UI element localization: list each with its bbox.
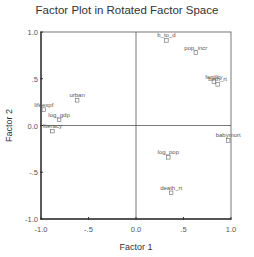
factor-plot: -1.0-.50.0.51.01.0.50.0-.5-1.0Factor 1Fa… xyxy=(0,0,254,257)
point-label: pop_incr xyxy=(184,45,207,51)
point-marker xyxy=(51,129,55,133)
point-label: babymort xyxy=(216,132,241,138)
point-label: log_gdp xyxy=(48,112,70,118)
x-tick-label: 1.0 xyxy=(226,225,236,234)
x-tick-label: .5 xyxy=(180,225,186,234)
point-label: lifeexpf xyxy=(34,102,53,108)
point-label: birth_rt xyxy=(208,76,227,82)
point-marker xyxy=(42,108,46,112)
y-axis-title: Factor 2 xyxy=(4,109,14,142)
point-marker xyxy=(165,39,169,43)
x-tick-label: 0.0 xyxy=(131,225,141,234)
point-marker xyxy=(226,139,230,143)
x-axis-title: Factor 1 xyxy=(119,242,152,252)
point-label: log_pop xyxy=(158,149,180,155)
point-marker xyxy=(57,118,61,122)
point-marker xyxy=(75,98,79,102)
point-marker xyxy=(194,51,198,55)
point-label: b_to_d xyxy=(157,32,175,38)
y-tick-label: -.5 xyxy=(29,168,38,177)
point-marker xyxy=(167,155,171,159)
x-tick-label: -.5 xyxy=(84,225,93,234)
point-label: literacy xyxy=(43,123,62,129)
y-tick-label: 0.0 xyxy=(28,122,38,131)
y-tick-label: 1.0 xyxy=(28,28,38,37)
point-label: urban xyxy=(69,92,84,98)
x-tick-label: -1.0 xyxy=(35,225,48,234)
y-tick-label: -1.0 xyxy=(25,215,38,224)
point-marker xyxy=(169,191,173,195)
point-label: death_rt xyxy=(160,185,182,191)
point-marker xyxy=(216,83,220,87)
y-tick-label: .5 xyxy=(32,75,38,84)
